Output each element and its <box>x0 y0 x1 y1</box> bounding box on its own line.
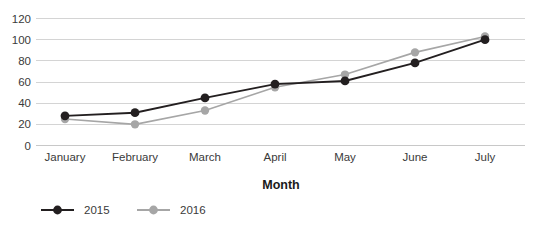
y-tick-label-120: 120 <box>12 13 31 25</box>
legend-item-2015[interactable]: 2015 <box>41 204 110 216</box>
y-axis-tick-labels: 120 100 80 60 40 20 0 <box>12 13 31 152</box>
chart-canvas: 120 100 80 60 40 20 0 <box>0 0 536 229</box>
line-chart: 120 100 80 60 40 20 0 <box>0 0 536 229</box>
data-point-2015-january <box>61 111 70 120</box>
y-tick-label-0: 0 <box>25 140 31 152</box>
x-tick-label-june: June <box>403 151 428 163</box>
y-tick-label-60: 60 <box>18 76 31 88</box>
legend-label-2016: 2016 <box>180 204 206 216</box>
x-tick-label-july: July <box>475 151 496 163</box>
y-tick-label-100: 100 <box>12 34 31 46</box>
data-point-2015-march <box>201 93 210 102</box>
chart-legend: 2015 2016 <box>41 204 206 216</box>
y-tick-label-80: 80 <box>18 55 31 67</box>
legend-marker-dot-2016 <box>149 206 158 215</box>
data-point-2015-june <box>411 59 420 68</box>
data-point-2016-june <box>411 48 419 56</box>
legend-item-2016[interactable]: 2016 <box>137 204 206 216</box>
x-tick-label-may: May <box>334 151 356 163</box>
data-point-2016-march <box>201 106 209 114</box>
legend-marker-dot-2015 <box>53 206 62 215</box>
data-point-2016-february <box>131 120 139 128</box>
y-tick-label-20: 20 <box>18 118 31 130</box>
x-tick-label-february: February <box>112 151 158 163</box>
x-tick-label-january: January <box>45 151 86 163</box>
data-point-2015-july <box>481 35 490 44</box>
series-2015 <box>61 35 490 120</box>
data-point-2015-april <box>271 80 280 89</box>
legend-label-2015: 2015 <box>84 204 110 216</box>
data-point-2015-may <box>341 77 350 86</box>
x-axis-title: Month <box>262 178 299 192</box>
x-tick-label-march: March <box>189 151 221 163</box>
x-axis-tick-labels: January February March April May June Ju… <box>45 151 496 163</box>
y-tick-label-40: 40 <box>18 97 31 109</box>
gridlines <box>36 19 525 146</box>
data-point-2015-february <box>131 108 140 117</box>
x-tick-label-april: April <box>263 151 286 163</box>
